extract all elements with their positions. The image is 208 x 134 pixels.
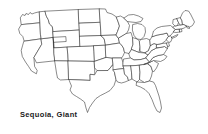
state-north-dakota — [79, 9, 101, 23]
map-state-outlines — [19, 9, 195, 113]
state-utah-north — [53, 37, 66, 43]
state-arizona — [55, 61, 69, 80]
cape-cod-outline — [187, 26, 190, 29]
state-arkansas — [113, 58, 124, 70]
state-rhode-island — [180, 29, 183, 32]
state-alabama — [131, 65, 140, 82]
screenshot-root: Sequoia, Giant — [0, 0, 208, 134]
state-michigan-lower — [133, 24, 146, 40]
state-minnesota — [100, 9, 120, 36]
state-florida — [137, 81, 162, 113]
figure-caption: Sequoia, Giant — [20, 110, 77, 119]
state-south-dakota — [79, 22, 101, 36]
state-colorado — [67, 46, 94, 62]
long-island-outline — [172, 35, 179, 39]
state-nebraska — [80, 36, 106, 47]
state-oregon — [19, 23, 42, 41]
state-washington — [21, 12, 40, 25]
